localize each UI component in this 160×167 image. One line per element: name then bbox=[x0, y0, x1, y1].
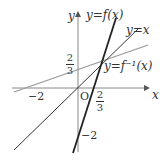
y-axis-arrow-icon bbox=[75, 11, 81, 17]
frac-denominator: 3 bbox=[67, 66, 73, 76]
y-tick-neg2: −2 bbox=[81, 130, 97, 141]
graph-diagram: y x O y=f(x) y=x y=f⁻¹(x) −2 −2 2 3 2 3 bbox=[0, 0, 160, 167]
frac-numerator: 2 bbox=[97, 90, 103, 100]
label-f-inverse: y=f⁻¹(x) bbox=[104, 60, 153, 72]
label-identity: y=x bbox=[126, 24, 150, 36]
x-tick-two-thirds: 2 3 bbox=[96, 90, 104, 113]
y-axis-label: y bbox=[68, 10, 75, 22]
x-axis-arrow-icon bbox=[144, 85, 150, 91]
x-axis-label: x bbox=[152, 89, 159, 101]
origin-label: O bbox=[80, 91, 89, 102]
y-tick-two-thirds: 2 3 bbox=[66, 53, 74, 76]
x-tick-neg2: −2 bbox=[28, 91, 44, 102]
label-f: y=f(x) bbox=[86, 9, 123, 21]
frac-numerator: 2 bbox=[67, 53, 73, 63]
frac-denominator: 3 bbox=[97, 103, 103, 113]
